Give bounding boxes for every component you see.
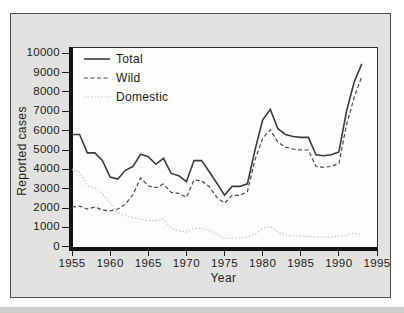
y-tick-mark: [62, 227, 69, 228]
y-tick-label: 5000: [18, 143, 60, 155]
x-axis-title: Year: [69, 271, 378, 285]
x-tick-mark: [148, 251, 149, 256]
x-tick-mark: [262, 251, 263, 256]
y-tick-label: 8000: [18, 85, 60, 97]
x-tick-mark: [186, 251, 187, 256]
y-tick-label: 3000: [18, 182, 60, 194]
y-tick-label: 4000: [18, 162, 60, 174]
y-tick-label: 2000: [18, 201, 60, 213]
y-tick-mark: [62, 53, 69, 54]
y-tick-label: 1000: [18, 220, 60, 232]
x-tick-mark: [72, 251, 73, 256]
y-tick-label: 9000: [18, 66, 60, 78]
y-tick-mark: [62, 91, 69, 92]
y-tick-mark: [62, 72, 69, 73]
y-tick-mark: [62, 208, 69, 209]
legend-label-wild: Wild: [116, 71, 141, 85]
y-tick-mark: [62, 111, 69, 112]
x-tick-mark: [224, 251, 225, 256]
y-tick-mark: [62, 188, 69, 189]
y-tick-mark: [62, 130, 69, 131]
x-tick-mark: [300, 251, 301, 256]
x-tick-mark: [338, 251, 339, 256]
legend-label-domestic: Domestic: [116, 90, 168, 104]
y-tick-mark: [62, 246, 69, 247]
figure-frame: Reported cases Year Total Wild Domestic …: [0, 0, 404, 313]
y-tick-label: 10000: [18, 46, 60, 58]
x-tick-label: 1995: [355, 257, 399, 269]
y-tick-label: 6000: [18, 124, 60, 136]
y-tick-label: 0: [18, 240, 60, 252]
bottom-edge-strip: [0, 307, 404, 313]
x-tick-mark: [110, 251, 111, 256]
legend-label-total: Total: [116, 52, 143, 66]
y-tick-mark: [62, 169, 69, 170]
x-tick-mark: [377, 251, 378, 256]
y-tick-label: 7000: [18, 104, 60, 116]
y-tick-mark: [62, 150, 69, 151]
